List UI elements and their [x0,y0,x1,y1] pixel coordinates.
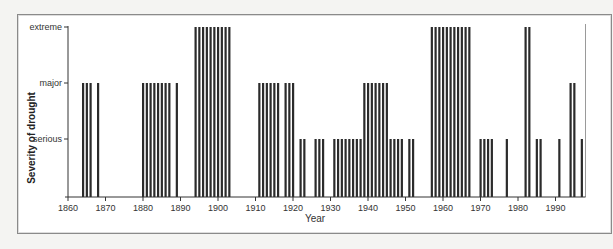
bar-1943 [378,83,380,197]
bar-1896 [202,27,204,197]
drought-severity-chart: seriousmajorextreme186018701880189019001… [0,0,613,249]
bar-1986 [540,139,542,197]
bar-1926 [315,139,317,197]
bar-1939 [363,83,365,197]
bar-1960 [442,27,444,197]
bar-1938 [360,139,362,197]
bar-1887 [168,83,170,197]
bar-1923 [303,139,305,197]
bar-1918 [285,83,287,197]
bar-1931 [333,139,335,197]
bar-1973 [491,139,493,197]
bar-1934 [345,139,347,197]
y-tick-label-serious: serious [33,134,63,144]
bar-1919 [288,83,290,197]
x-tick-label-1870: 1870 [95,203,115,213]
bar-1948 [397,139,399,197]
bar-1889 [176,83,178,197]
bar-1894 [195,27,197,197]
x-tick-label-1880: 1880 [133,203,153,213]
bar-1915 [273,83,275,197]
x-tick-label-1960: 1960 [433,203,453,213]
bar-1941 [371,83,373,197]
bar-1897 [206,27,208,197]
bar-1935 [348,139,350,197]
bar-1995 [573,83,575,197]
y-axis-label: Severity of drought [26,91,37,183]
bar-1900 [217,27,219,197]
bar-1903 [228,27,230,197]
bar-1977 [506,139,508,197]
bar-1916 [277,83,279,197]
axes-group: seriousmajorextreme186018701880189019001… [29,22,585,213]
bar-1947 [393,139,395,197]
bar-1920 [292,83,294,197]
x-tick-label-1940: 1940 [358,203,378,213]
bar-1927 [318,139,320,197]
bar-1961 [446,27,448,197]
bar-1964 [457,27,459,197]
x-tick-label-1970: 1970 [470,203,490,213]
bar-1868 [97,83,99,197]
x-axis-label: Year [305,213,326,224]
bar-1965 [461,27,463,197]
x-tick-label-1930: 1930 [320,203,340,213]
bar-1933 [341,139,343,197]
bar-1865 [86,83,88,197]
bar-1991 [558,139,560,197]
bar-1970 [480,139,482,197]
bar-1864 [82,83,84,197]
bar-1901 [221,27,223,197]
y-tick-label-major: major [39,78,62,88]
bar-1963 [453,27,455,197]
x-tick-label-1920: 1920 [283,203,303,213]
x-tick-label-1900: 1900 [208,203,228,213]
bar-1885 [161,83,163,197]
x-tick-label-1860: 1860 [58,203,78,213]
bar-1913 [266,83,268,197]
bar-1942 [375,83,377,197]
bar-1951 [408,139,410,197]
bar-1911 [258,83,260,197]
bar-1883 [153,83,155,197]
bars-group [82,24,586,197]
bar-1936 [352,139,354,197]
y-tick-label-extreme: extreme [29,22,62,32]
bar-1899 [213,27,215,197]
bar-1966 [465,27,467,197]
x-tick-label-1950: 1950 [395,203,415,213]
bar-1946 [390,139,392,197]
bar-1902 [225,27,227,197]
bar-1957 [431,27,433,197]
bar-1937 [356,139,358,197]
bar-1940 [367,83,369,197]
bar-1928 [322,139,324,197]
bar-1895 [198,27,200,197]
bar-1922 [300,139,302,197]
x-tick-label-1990: 1990 [545,203,565,213]
bar-1952 [412,139,414,197]
bar-1982 [525,27,527,197]
bar-1884 [157,83,159,197]
bar-1985 [536,139,538,197]
bar-1912 [262,83,264,197]
bar-1886 [165,83,167,197]
bar-1967 [468,27,470,197]
x-tick-label-1980: 1980 [508,203,528,213]
x-tick-label-1910: 1910 [245,203,265,213]
bar-1898 [210,27,212,197]
bar-1997 [581,139,583,197]
bar-1994 [570,83,572,197]
bar-1932 [337,139,339,197]
bar-1945 [386,83,388,197]
bar-1880 [142,83,144,197]
bar-1866 [90,83,92,197]
bar-1959 [438,27,440,197]
bar-1881 [146,83,148,197]
x-tick-label-1890: 1890 [170,203,190,213]
bar-1914 [270,83,272,197]
bar-1944 [382,83,384,197]
bar-1949 [401,139,403,197]
bar-1971 [483,139,485,197]
bar-1958 [435,27,437,197]
